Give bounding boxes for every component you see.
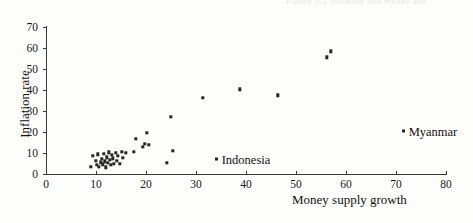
data-point: [276, 94, 279, 97]
annotation-label: Indonesia: [222, 152, 271, 166]
x-tick-30: [196, 171, 197, 175]
data-point: [116, 154, 119, 157]
y-tick-40: [43, 90, 47, 91]
x-tick-label-50: 50: [290, 178, 302, 190]
data-point: [238, 88, 241, 91]
data-point: [169, 115, 172, 118]
x-tick-20: [146, 171, 147, 175]
annotation-indonesia: Indonesia: [215, 152, 271, 167]
x-tick-label-0: 0: [43, 178, 49, 190]
data-point: [201, 96, 204, 99]
x-tick-50: [296, 171, 297, 175]
x-tick-10: [96, 171, 97, 175]
data-point: [147, 143, 150, 146]
data-point: [91, 154, 94, 157]
y-tick-label-0: 0: [0, 168, 38, 180]
x-tick-80: [446, 171, 447, 175]
data-point: [111, 157, 114, 160]
data-point: [325, 56, 328, 59]
data-point: [165, 161, 168, 164]
x-tick-label-30: 30: [190, 178, 202, 190]
data-point: [112, 162, 115, 165]
x-tick-60: [346, 171, 347, 175]
data-point: [124, 151, 127, 154]
y-tick-70: [43, 27, 47, 28]
x-tick-label-60: 60: [340, 178, 352, 190]
data-point: [141, 145, 144, 148]
y-tick-0: [43, 174, 47, 175]
y-tick-10: [43, 153, 47, 154]
data-point: [134, 137, 137, 140]
annotation-marker-icon: [402, 130, 405, 133]
data-point: [118, 162, 121, 165]
annotation-marker-icon: [215, 158, 218, 161]
x-tick-label-80: 80: [440, 178, 452, 190]
x-tick-40: [246, 171, 247, 175]
x-tick-label-70: 70: [390, 178, 402, 190]
y-tick-label-60: 60: [0, 42, 38, 54]
data-point: [145, 131, 148, 134]
y-axis-title: Inflation rate: [17, 59, 33, 149]
x-axis-title: Money supply growth: [292, 192, 407, 208]
figure-scatter-plot: Figure 5.2 Inflation and money growth 01…: [0, 0, 473, 223]
data-point: [329, 49, 332, 52]
y-tick-20: [43, 132, 47, 133]
plot-area: 01020304050607080 010203040506070 Indone…: [0, 0, 473, 223]
y-tick-30: [43, 111, 47, 112]
x-tick-70: [396, 171, 397, 175]
y-tick-60: [43, 48, 47, 49]
data-point: [89, 165, 92, 168]
annotation-label: Myanmar: [409, 124, 458, 138]
data-point: [104, 166, 107, 169]
x-tick-label-10: 10: [90, 178, 102, 190]
x-tick-label-20: 20: [140, 178, 152, 190]
data-point: [132, 150, 135, 153]
data-point: [171, 149, 174, 152]
x-tick-label-40: 40: [240, 178, 252, 190]
y-tick-50: [43, 69, 47, 70]
y-tick-label-70: 70: [0, 21, 38, 33]
data-point: [96, 153, 99, 156]
data-point: [121, 156, 124, 159]
annotation-myanmar: Myanmar: [402, 124, 458, 139]
